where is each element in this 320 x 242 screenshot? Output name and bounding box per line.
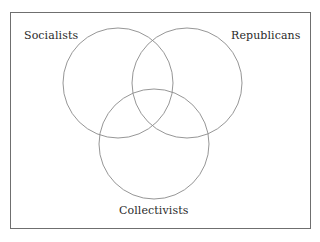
collectivists-label: Collectivists (119, 204, 188, 217)
republicans-label: Republicans (231, 29, 301, 42)
republicans-circle (132, 28, 242, 138)
socialists-label: Socialists (24, 29, 78, 42)
socialists-circle (63, 28, 173, 138)
collectivists-circle (99, 89, 209, 199)
